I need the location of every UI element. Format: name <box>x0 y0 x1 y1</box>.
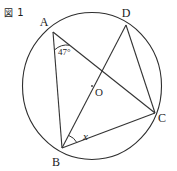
segment-bc <box>62 113 155 148</box>
center-label-o: O <box>95 86 103 98</box>
point-label-c: C <box>158 111 166 125</box>
angle-arc-b <box>69 136 77 143</box>
geometry-diagram: A D C B O 47° x <box>0 0 177 171</box>
segment-dc <box>126 25 155 113</box>
angle-value-47: 47° <box>58 47 71 57</box>
center-point-marker <box>91 85 93 87</box>
segment-ac <box>53 32 155 113</box>
figure-container: 図 1 A D C B O 47° x <box>0 0 177 171</box>
point-label-b: B <box>52 155 60 169</box>
point-label-a: A <box>40 15 49 29</box>
angle-value-x: x <box>82 130 88 142</box>
segment-bd <box>62 25 126 148</box>
point-label-d: D <box>122 6 131 20</box>
